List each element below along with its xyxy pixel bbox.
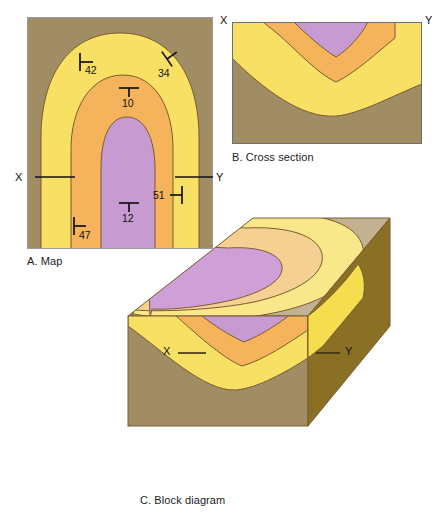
strike-dip-value-51: 51: [153, 189, 165, 201]
cross-section-figure: [232, 22, 422, 144]
cross-section-label-x: X: [220, 14, 227, 26]
block-front-face: [128, 308, 308, 426]
strike-dip-value-34: 34: [158, 67, 170, 79]
map-caption: A. Map: [27, 255, 62, 267]
strike-dip-value-47: 47: [79, 229, 91, 241]
panel-cross-section: [232, 22, 422, 144]
strike-dip-value-10: 10: [122, 97, 134, 109]
map-section-label-y: Y: [216, 171, 223, 183]
cross-section-caption: B. Cross section: [232, 151, 314, 163]
map-section-label-x: X: [15, 171, 22, 183]
strike-dip-value-42: 42: [85, 64, 97, 76]
block-diagram-label-x: X: [163, 345, 170, 357]
block-diagram-label-y: Y: [345, 345, 352, 357]
cross-section-label-y: Y: [425, 14, 432, 26]
block-diagram-caption: C. Block diagram: [140, 494, 225, 506]
